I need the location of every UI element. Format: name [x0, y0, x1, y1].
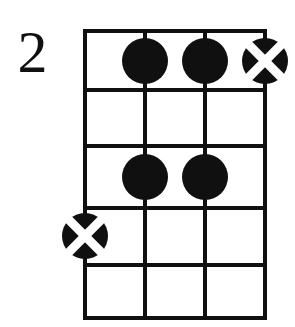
- string-lines-group: [85, 31, 265, 318]
- fret-lines-group: [83, 31, 267, 318]
- cross-fret1-string4-icon: [242, 38, 288, 84]
- finger-markers-group: [62, 38, 288, 259]
- fretboard-grid: [0, 0, 295, 327]
- dot-fret1-string3: [182, 38, 228, 84]
- cross-fret4-string1-icon: [62, 213, 108, 259]
- chord-diagram: 2: [0, 0, 295, 327]
- dot-fret3-string2: [122, 154, 168, 200]
- dot-fret3-string3: [182, 154, 228, 200]
- dot-fret1-string2: [122, 38, 168, 84]
